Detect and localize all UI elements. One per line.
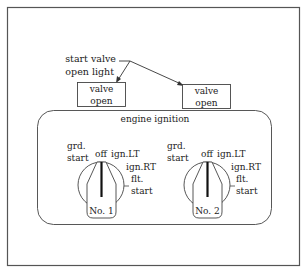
indicator-1-line2: open [90, 96, 113, 106]
pos-flt-start-line2: start [236, 186, 258, 196]
pos-grd-start-line2: start [67, 153, 89, 163]
indicator-2-line2: open [195, 98, 218, 108]
pos-ign-rt: ign.RT [126, 162, 156, 172]
pos-flt-start-line1: flt. [131, 174, 144, 184]
pos-ign-rt: ign.RT [231, 162, 261, 172]
pos-ign-lt: ign.LT [217, 149, 246, 159]
pos-grd-start-line1: grd. [67, 141, 86, 151]
pos-grd-start-line1: grd. [167, 141, 186, 151]
outer-frame [8, 8, 300, 266]
switch-name: No. 2 [195, 206, 220, 216]
callout-label-line1: start valve [65, 53, 116, 64]
panel-title: engine ignition [121, 114, 190, 124]
pos-off: off [95, 149, 107, 159]
valve-open-light-2: valve open [183, 85, 231, 109]
engine-ignition-diagram: start valve open light valve open valve … [0, 0, 303, 273]
indicator-1-line1: valve [89, 84, 114, 94]
pos-flt-start-line1: flt. [236, 174, 249, 184]
indicator-2-line1: valve [194, 86, 219, 96]
callout-label-line2: open light [65, 66, 114, 77]
callout-leader [118, 61, 181, 84]
pos-grd-start-line2: start [167, 153, 189, 163]
pos-flt-start-line2: start [131, 186, 153, 196]
ignition-switch-1[interactable]: grd. start off ign.LT ign.RT flt. start … [67, 141, 156, 218]
pos-ign-lt: ign.LT [111, 149, 140, 159]
ignition-switch-2[interactable]: grd. start off ign.LT ign.RT flt. start … [167, 141, 261, 218]
pos-off: off [201, 149, 213, 159]
switch-name: No. 1 [89, 206, 114, 216]
valve-open-light-1: valve open [78, 83, 126, 107]
